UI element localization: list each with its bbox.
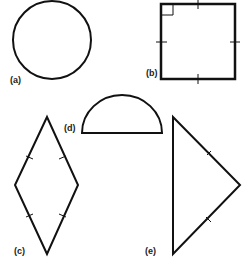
label-c: (c) (14, 247, 25, 256)
label-b: (b) (146, 69, 158, 78)
semicircle-shape (82, 95, 162, 133)
label-d: (d) (64, 124, 76, 133)
circle-shape (13, 1, 91, 79)
rhombus-shape (15, 117, 78, 254)
label-a: (a) (10, 76, 21, 85)
label-e: (e) (145, 247, 156, 256)
shapes-diagram (0, 0, 250, 267)
square-shape (156, 0, 240, 84)
triangle-shape (173, 117, 240, 254)
right-angle-marker (162, 5, 173, 15)
